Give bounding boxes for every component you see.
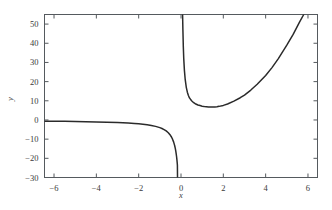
y-tick-label: 40 <box>30 38 39 48</box>
y-tick-label: 20 <box>30 77 39 87</box>
figure-background <box>0 0 332 210</box>
y-tick-label: −10 <box>25 134 38 144</box>
x-tick-label: 2 <box>221 183 225 193</box>
y-axis-label: y <box>5 97 15 102</box>
x-tick-label: 6 <box>306 183 310 193</box>
figure-canvas: −30−20−1001020304050 −6−4−20246 x y <box>0 0 332 210</box>
y-tick-label: −30 <box>25 173 38 183</box>
x-tick-label: −4 <box>92 183 102 193</box>
function-plot: −30−20−1001020304050 −6−4−20246 x y <box>0 0 332 210</box>
y-tick-label: 10 <box>30 96 39 106</box>
x-axis-label: x <box>178 190 183 200</box>
y-tick-label: −20 <box>25 153 38 163</box>
x-tick-label: −2 <box>134 183 143 193</box>
x-tick-label: 4 <box>264 183 269 193</box>
y-tick-label: 30 <box>30 57 39 67</box>
y-tick-label: 0 <box>34 115 38 125</box>
x-tick-label: −6 <box>49 183 58 193</box>
y-tick-label: 50 <box>30 19 39 29</box>
